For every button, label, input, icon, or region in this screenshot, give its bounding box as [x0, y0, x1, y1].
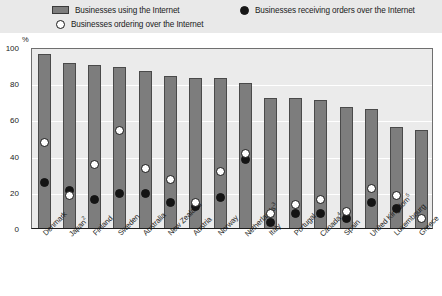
- legend-label-using: Businesses using the Internet: [75, 6, 180, 15]
- y-axis-unit: %: [22, 35, 29, 44]
- marker-ordering: [392, 191, 401, 200]
- marker-ordering: [316, 195, 325, 204]
- marker-receiving-orders: [166, 198, 175, 207]
- legend-entry-bar: Businesses using the Internet: [52, 3, 180, 17]
- marker-ordering: [367, 184, 376, 193]
- marker-receiving-orders: [141, 189, 150, 198]
- marker-receiving-orders: [367, 198, 376, 207]
- bar-swatch-icon: [52, 6, 69, 14]
- chart-legend: Businesses using the Internet Businesses…: [0, 0, 442, 33]
- filled-circle-icon: [240, 6, 249, 15]
- y-axis-tick-label: 20: [0, 188, 19, 197]
- y-axis-tick-label: 40: [0, 152, 19, 161]
- marker-ordering: [166, 175, 175, 184]
- open-circle-icon: [56, 20, 65, 29]
- y-axis-tick-label: 100: [0, 44, 19, 53]
- marker-ordering: [342, 207, 351, 216]
- legend-entry-open-circle: Businesses ordering over the Internet: [52, 17, 203, 31]
- y-axis-tick-label: 0: [0, 225, 19, 234]
- marker-ordering: [141, 164, 150, 173]
- legend-entry-filled-circle: Businesses receiving orders over the Int…: [236, 3, 415, 17]
- marker-receiving-orders: [90, 195, 99, 204]
- legend-label-ordering: Businesses ordering over the Internet: [71, 20, 203, 29]
- marker-ordering: [191, 198, 200, 207]
- y-axis-tick-label: 80: [0, 80, 19, 89]
- y-axis-tick-label: 60: [0, 116, 19, 125]
- legend-label-receiving: Businesses receiving orders over the Int…: [255, 6, 415, 15]
- x-axis-labels: DenmarkJapan2FinlandSwedenAustraliaNew Z…: [31, 231, 433, 295]
- marker-receiving-orders: [392, 204, 401, 213]
- marker-receiving-orders: [216, 193, 225, 202]
